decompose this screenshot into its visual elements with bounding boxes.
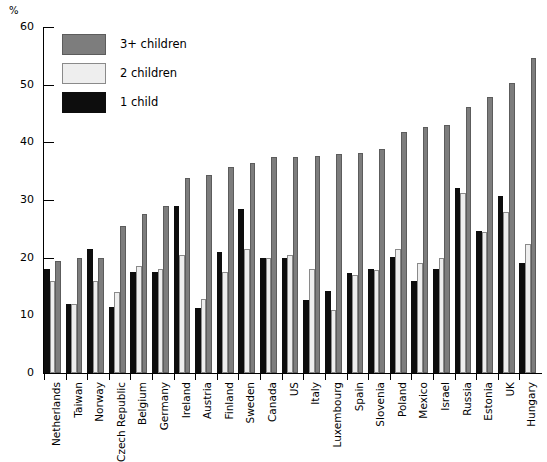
- x-tick-label: Sweden: [245, 382, 255, 424]
- x-label-cell: Slovenia: [368, 381, 390, 447]
- x-label-cell: Russia: [455, 381, 477, 447]
- bar: [77, 258, 83, 373]
- x-label-cell: Netherlands: [44, 381, 66, 447]
- x-tick-mark: [390, 374, 391, 380]
- x-tick-mark: [282, 374, 283, 380]
- x-tick-mark: [519, 374, 520, 380]
- x-tick-cell: [368, 374, 390, 380]
- x-tick-mark: [130, 374, 131, 380]
- bar: [271, 157, 277, 373]
- bar-group: [217, 27, 239, 373]
- x-label-cell: Hungary: [519, 381, 541, 447]
- bar-group: [260, 27, 282, 373]
- x-label-cell: Czech Republic: [109, 381, 131, 447]
- x-tick-cell: [519, 374, 541, 380]
- x-tick-label: Hungary: [526, 382, 536, 427]
- x-tick-mark: [433, 374, 434, 380]
- bar-group: [282, 27, 304, 373]
- bar: [444, 125, 450, 373]
- bar: [487, 97, 493, 373]
- x-tick-label: Taiwan: [73, 382, 83, 418]
- x-tick-cell: [390, 374, 412, 380]
- x-label-cell: Poland: [390, 381, 412, 447]
- x-label-cell: Sweden: [238, 381, 260, 447]
- y-tick-label: 60: [8, 20, 34, 33]
- x-tick-label: US: [289, 382, 299, 396]
- x-tick-cell: [130, 374, 152, 380]
- y-tick-label: 50: [8, 78, 34, 91]
- legend-item-3plus: 3+ children: [62, 32, 187, 56]
- x-label-cell: Italy: [303, 381, 325, 447]
- bar: [55, 261, 61, 373]
- x-label-cell: Spain: [347, 381, 369, 447]
- x-tick-label: Mexico: [418, 382, 428, 419]
- bar-group: [303, 27, 325, 373]
- black-swatch-icon: [62, 92, 106, 113]
- bar-group: [411, 27, 433, 373]
- bar: [315, 156, 321, 373]
- x-tick-mark: [260, 374, 261, 380]
- y-axis-unit-label: %: [9, 5, 19, 16]
- bar-group: [195, 27, 217, 373]
- x-tick-mark: [87, 374, 88, 380]
- x-tick-cell: [433, 374, 455, 380]
- bar: [120, 226, 126, 373]
- x-tick-cell: [282, 374, 304, 380]
- x-tick-mark: [498, 374, 499, 380]
- x-tick-label: UK: [505, 382, 515, 397]
- x-tick-label: Czech Republic: [116, 382, 126, 462]
- bar-group: [455, 27, 477, 373]
- bar: [401, 132, 407, 373]
- legend-label: 1 child: [120, 95, 158, 109]
- x-tick-cell: [195, 374, 217, 380]
- x-axis-labels: NetherlandsTaiwanNorwayCzech RepublicBel…: [44, 381, 541, 447]
- x-tick-mark: [411, 374, 412, 380]
- x-label-cell: Taiwan: [66, 381, 88, 447]
- x-label-cell: Belgium: [130, 381, 152, 447]
- x-tick-cell: [66, 374, 88, 380]
- legend: 3+ children 2 children 1 child: [62, 32, 187, 119]
- y-tick-label: 40: [8, 135, 34, 148]
- legend-item-1child: 1 child: [62, 90, 187, 114]
- x-tick-cell: [238, 374, 260, 380]
- x-tick-label: Russia: [462, 382, 472, 416]
- x-tick-cell: [347, 374, 369, 380]
- x-label-cell: US: [282, 381, 304, 447]
- bar-group: [519, 27, 541, 373]
- x-tick-cell: [109, 374, 131, 380]
- x-tick-label: Netherlands: [51, 382, 61, 446]
- x-tick-cell: [44, 374, 66, 380]
- x-tick-cell: [260, 374, 282, 380]
- bar-group: [368, 27, 390, 373]
- bar: [423, 127, 429, 373]
- bar: [466, 107, 472, 373]
- x-tick-mark: [368, 374, 369, 380]
- x-tick-cell: [498, 374, 520, 380]
- x-tick-label: Finland: [224, 382, 234, 420]
- y-tick-label: 10: [8, 308, 34, 321]
- bar: [336, 154, 342, 373]
- x-tick-cell: [476, 374, 498, 380]
- legend-label: 2 children: [120, 66, 177, 80]
- bar: [531, 58, 537, 373]
- x-tick-cell: [87, 374, 109, 380]
- bar-group: [390, 27, 412, 373]
- x-tick-label: Norway: [94, 382, 104, 422]
- bar: [358, 153, 364, 373]
- y-tick-label: 20: [8, 251, 34, 264]
- x-tick-label: Spain: [354, 382, 364, 411]
- x-tick-label: Poland: [397, 382, 407, 417]
- legend-label: 3+ children: [120, 37, 187, 51]
- bar: [293, 157, 299, 373]
- x-tick-label: Germany: [159, 382, 169, 430]
- x-tick-label: Italy: [310, 382, 320, 405]
- x-tick-mark: [195, 374, 196, 380]
- y-tick-label: 0: [8, 366, 34, 379]
- x-label-cell: Estonia: [476, 381, 498, 447]
- x-tick-label: Slovenia: [375, 382, 385, 427]
- legend-item-2children: 2 children: [62, 61, 187, 85]
- x-tick-label: Belgium: [137, 382, 147, 425]
- x-label-cell: Germany: [152, 381, 174, 447]
- x-tick-label: Ireland: [181, 382, 191, 418]
